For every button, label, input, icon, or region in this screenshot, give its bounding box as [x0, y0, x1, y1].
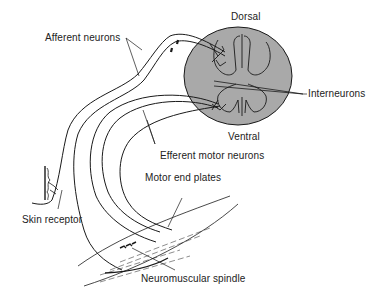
efferent-fibers [90, 95, 220, 242]
label-efferent-motor-neurons: Efferent motor neurons [160, 150, 264, 161]
spinal-cord [184, 27, 303, 125]
label-afferent-neurons: Afferent neurons [45, 32, 120, 43]
skin-receptor [45, 166, 58, 200]
label-ventral: Ventral [228, 131, 260, 142]
label-skin-receptor: Skin receptor [22, 214, 82, 225]
label-neuromuscular-spindle: Neuromuscular spindle [141, 273, 245, 284]
label-motor-end-plates: Motor end plates [145, 172, 221, 183]
label-interneurons: Interneurons [308, 88, 365, 99]
label-dorsal: Dorsal [231, 11, 261, 22]
